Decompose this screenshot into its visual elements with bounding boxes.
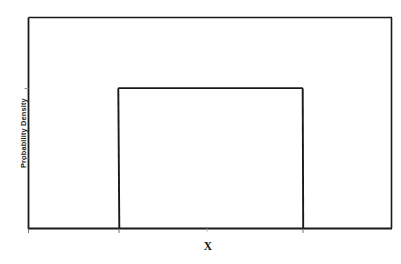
y-axis-label: Probability Density [20, 98, 27, 168]
axis-ticks [25, 89, 304, 234]
uniform-distribution-plot [0, 0, 401, 264]
axes-frame [29, 18, 393, 230]
figure-container: Probability Density X [0, 0, 401, 264]
pdf-right-riser [303, 88, 304, 228]
uniform-pdf-block [118, 88, 303, 228]
x-axis-label: X [198, 241, 218, 253]
pdf-left-riser [118, 88, 119, 228]
